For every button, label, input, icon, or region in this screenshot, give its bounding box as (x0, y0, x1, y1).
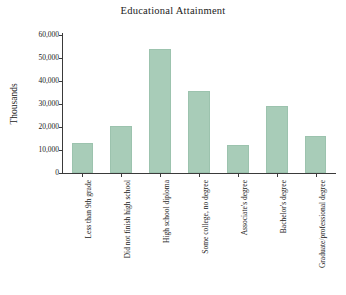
bar-slot (72, 35, 94, 173)
x-axis-label: Graduate/professional degree (319, 180, 327, 268)
x-axis-label: Associate's degree (241, 180, 249, 235)
bar-slot (266, 35, 288, 173)
bar-slot (110, 35, 132, 173)
bar-slot (188, 35, 210, 173)
x-axis-label: Some college, no degree (202, 180, 210, 254)
bar-series (63, 35, 335, 173)
y-tick-label: 20,000 (38, 123, 59, 131)
y-tick-mark (59, 173, 63, 174)
bar[interactable] (72, 143, 94, 173)
x-axis-label: Less than 9th grade (85, 180, 93, 239)
bar[interactable] (305, 136, 327, 173)
bar-slot (305, 35, 327, 173)
bar-slot (227, 35, 249, 173)
y-axis-title: Thousands (9, 83, 19, 124)
y-tick-label: 0 (55, 169, 59, 177)
x-tick-mark (277, 173, 278, 177)
bar-slot (149, 35, 171, 173)
x-tick-mark (199, 173, 200, 177)
y-tick-label: 30,000 (38, 100, 59, 108)
x-tick-mark (121, 173, 122, 177)
x-tick-mark (238, 173, 239, 177)
y-tick-label: 10,000 (38, 146, 59, 154)
y-tick-label: 40,000 (38, 77, 59, 85)
bar-chart: Educational Attainment Thousands 010,000… (0, 0, 346, 295)
x-axis-label: Bachelor's degree (280, 180, 288, 233)
bar[interactable] (188, 91, 210, 173)
x-axis-label: Did not finish high school (124, 180, 132, 258)
y-tick-label: 50,000 (38, 54, 59, 62)
chart-title: Educational Attainment (0, 5, 346, 16)
x-tick-mark (160, 173, 161, 177)
bar[interactable] (266, 106, 288, 173)
x-tick-mark (316, 173, 317, 177)
x-tick-mark (82, 173, 83, 177)
bar[interactable] (149, 49, 171, 173)
y-tick-label: 60,000 (38, 31, 59, 39)
bar[interactable] (227, 145, 249, 173)
bar[interactable] (110, 126, 132, 173)
plot-area: 010,00020,00030,00040,00050,00060,000 (63, 35, 335, 173)
x-axis-label: High school diploma (163, 180, 171, 243)
